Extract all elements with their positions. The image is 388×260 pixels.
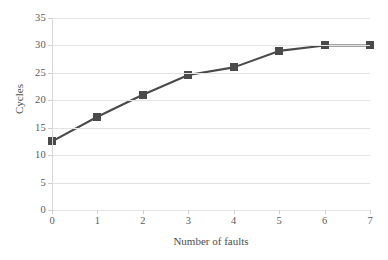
x-tick-mark	[370, 210, 371, 214]
y-axis-title: Cycles	[14, 84, 25, 114]
y-tick-mark	[48, 155, 52, 156]
y-tick-mark	[48, 128, 52, 129]
y-tick-label: 15	[6, 122, 46, 133]
y-axis-line	[52, 18, 53, 210]
y-tick-mark	[48, 183, 52, 184]
y-tick-mark	[48, 45, 52, 46]
gridline-y	[52, 18, 370, 19]
x-tick-label: 2	[130, 216, 156, 227]
x-tick-label: 0	[39, 216, 65, 227]
data-point-marker	[275, 47, 283, 55]
x-tick-label: 1	[84, 216, 110, 227]
y-tick-label: 35	[6, 13, 46, 24]
y-tick-label: 25	[6, 68, 46, 79]
x-tick-label: 3	[175, 216, 201, 227]
data-series-line	[52, 18, 370, 210]
y-tick-mark	[48, 73, 52, 74]
gridline-y	[52, 100, 370, 101]
data-point-marker	[93, 113, 101, 121]
y-tick-label: 10	[6, 150, 46, 161]
x-tick-mark	[143, 210, 144, 214]
data-point-marker	[230, 63, 238, 71]
x-tick-label: 5	[266, 216, 292, 227]
y-tick-mark	[48, 18, 52, 19]
x-tick-mark	[325, 210, 326, 214]
x-tick-mark	[97, 210, 98, 214]
gridline-y	[52, 155, 370, 156]
x-tick-mark	[188, 210, 189, 214]
x-axis-title: Number of faults	[52, 236, 370, 247]
gridline-y	[52, 183, 370, 184]
gridline-y	[52, 210, 370, 211]
y-tick-label: 20	[6, 95, 46, 106]
x-tick-label: 4	[221, 216, 247, 227]
line-chart: 05101520253035 01234567 Cycles Number of…	[0, 0, 388, 260]
x-tick-mark	[52, 210, 53, 214]
gridline-y	[52, 73, 370, 74]
x-tick-mark	[234, 210, 235, 214]
gridline-y	[52, 128, 370, 129]
x-tick-mark	[279, 210, 280, 214]
plot-area	[52, 18, 370, 210]
x-tick-label: 6	[312, 216, 338, 227]
x-tick-label: 7	[357, 216, 383, 227]
y-tick-mark	[48, 100, 52, 101]
y-tick-label: 0	[6, 205, 46, 216]
y-tick-label: 30	[6, 40, 46, 51]
gridline-y	[52, 45, 370, 46]
data-point-marker	[139, 91, 147, 99]
y-tick-label: 5	[6, 177, 46, 188]
